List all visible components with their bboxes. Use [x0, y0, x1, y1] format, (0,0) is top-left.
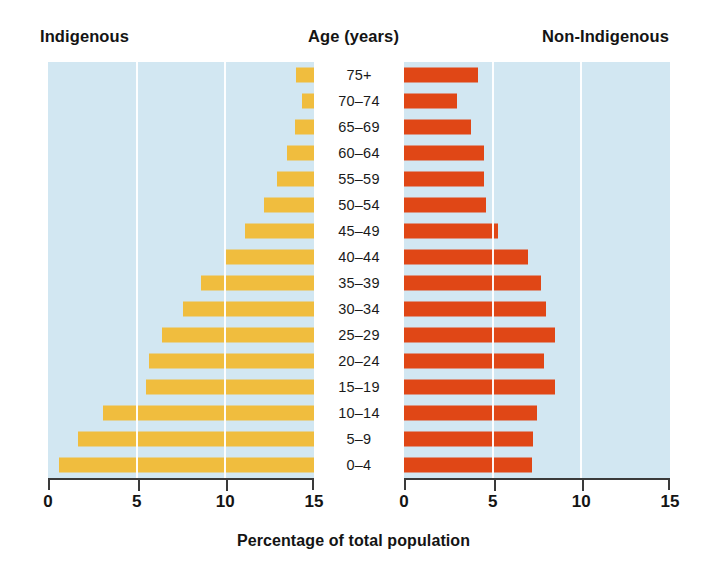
bar-row [404, 114, 670, 140]
age-group-label: 20–24 [314, 348, 404, 374]
x-axis-title: Percentage of total population [0, 532, 707, 550]
axis-tick-label: 15 [661, 492, 680, 512]
bar-non-indigenous [404, 432, 533, 447]
axis-tick-label: 10 [572, 492, 591, 512]
bar-row [404, 192, 670, 218]
bar-row [404, 452, 670, 478]
age-group-label: 35–39 [314, 270, 404, 296]
bar-row [48, 452, 314, 478]
bar-row [48, 114, 314, 140]
x-axis-non-indigenous [404, 478, 670, 490]
bar-row [48, 218, 314, 244]
axis-tick [494, 480, 496, 491]
axis-tick-label: 10 [216, 492, 235, 512]
age-group-label: 15–19 [314, 374, 404, 400]
age-group-label: 30–34 [314, 296, 404, 322]
bar-row [404, 348, 670, 374]
age-group-label: 75+ [314, 62, 404, 88]
x-axis-ticklabels-non-indigenous: 051015 [404, 492, 670, 516]
bar-row [404, 140, 670, 166]
bar-indigenous [146, 380, 314, 395]
bar-non-indigenous [404, 458, 532, 473]
bar-non-indigenous [404, 198, 486, 213]
bar-non-indigenous [404, 406, 537, 421]
bar-non-indigenous [404, 172, 484, 187]
x-axis-ticklabels-indigenous: 151050 [48, 492, 314, 516]
bar-row [48, 140, 314, 166]
bar-non-indigenous [404, 94, 457, 109]
gridline [224, 62, 226, 478]
bar-row [48, 192, 314, 218]
bar-indigenous [287, 146, 314, 161]
axis-tick [138, 480, 140, 491]
bar-row [404, 62, 670, 88]
bar-row [404, 426, 670, 452]
bar-non-indigenous [404, 302, 546, 317]
bar-indigenous [183, 302, 314, 317]
age-group-label: 40–44 [314, 244, 404, 270]
bar-row [48, 62, 314, 88]
bar-row [48, 270, 314, 296]
bar-row [48, 374, 314, 400]
age-group-label: 60–64 [314, 140, 404, 166]
age-group-label: 10–14 [314, 400, 404, 426]
bar-row [404, 166, 670, 192]
age-group-label: 50–54 [314, 192, 404, 218]
bar-rows-non-indigenous [404, 62, 670, 478]
bar-row [404, 218, 670, 244]
bar-row [48, 400, 314, 426]
bar-row [404, 270, 670, 296]
bar-row [48, 322, 314, 348]
bar-indigenous [296, 68, 314, 83]
bar-rows-indigenous [48, 62, 314, 478]
bar-non-indigenous [404, 120, 471, 135]
gridline [580, 62, 582, 478]
bar-row [48, 426, 314, 452]
bar-indigenous [277, 172, 314, 187]
bar-indigenous [245, 224, 314, 239]
bar-indigenous [264, 198, 314, 213]
chart-header-row: Indigenous Age (years) Non-Indigenous [0, 27, 707, 53]
age-group-label: 55–59 [314, 166, 404, 192]
gridline [492, 62, 494, 478]
age-group-label: 45–49 [314, 218, 404, 244]
age-group-label-column: 75+70–7465–6960–6455–5950–5445–4940–4435… [314, 62, 404, 478]
bar-non-indigenous [404, 250, 528, 265]
bar-non-indigenous [404, 68, 478, 83]
axis-tick-label: 15 [305, 492, 324, 512]
age-group-label: 0–4 [314, 452, 404, 478]
bar-row [404, 296, 670, 322]
bar-row [48, 166, 314, 192]
bar-indigenous [59, 458, 314, 473]
bar-non-indigenous [404, 380, 555, 395]
axis-tick-label: 5 [132, 492, 141, 512]
axis-tick [226, 480, 228, 491]
gridline [136, 62, 138, 478]
bar-non-indigenous [404, 224, 498, 239]
bar-non-indigenous [404, 354, 544, 369]
bar-row [404, 322, 670, 348]
bar-indigenous [225, 250, 314, 265]
bar-row [404, 400, 670, 426]
bar-indigenous [78, 432, 314, 447]
bar-indigenous [149, 354, 314, 369]
bar-non-indigenous [404, 146, 484, 161]
age-group-label: 25–29 [314, 322, 404, 348]
bar-indigenous [162, 328, 315, 343]
age-group-label: 5–9 [314, 426, 404, 452]
bar-indigenous [302, 94, 314, 109]
bar-non-indigenous [404, 276, 541, 291]
bar-row [404, 374, 670, 400]
legend-label-non-indigenous: Non-Indigenous [542, 27, 669, 46]
plot-panel-indigenous [48, 62, 314, 478]
age-group-label: 65–69 [314, 114, 404, 140]
bar-row [404, 244, 670, 270]
bar-indigenous [201, 276, 314, 291]
bar-row [48, 244, 314, 270]
axis-tick-label: 5 [488, 492, 497, 512]
bar-row [404, 88, 670, 114]
bar-non-indigenous [404, 328, 555, 343]
bar-row [48, 296, 314, 322]
bar-row [48, 88, 314, 114]
age-group-label: 70–74 [314, 88, 404, 114]
